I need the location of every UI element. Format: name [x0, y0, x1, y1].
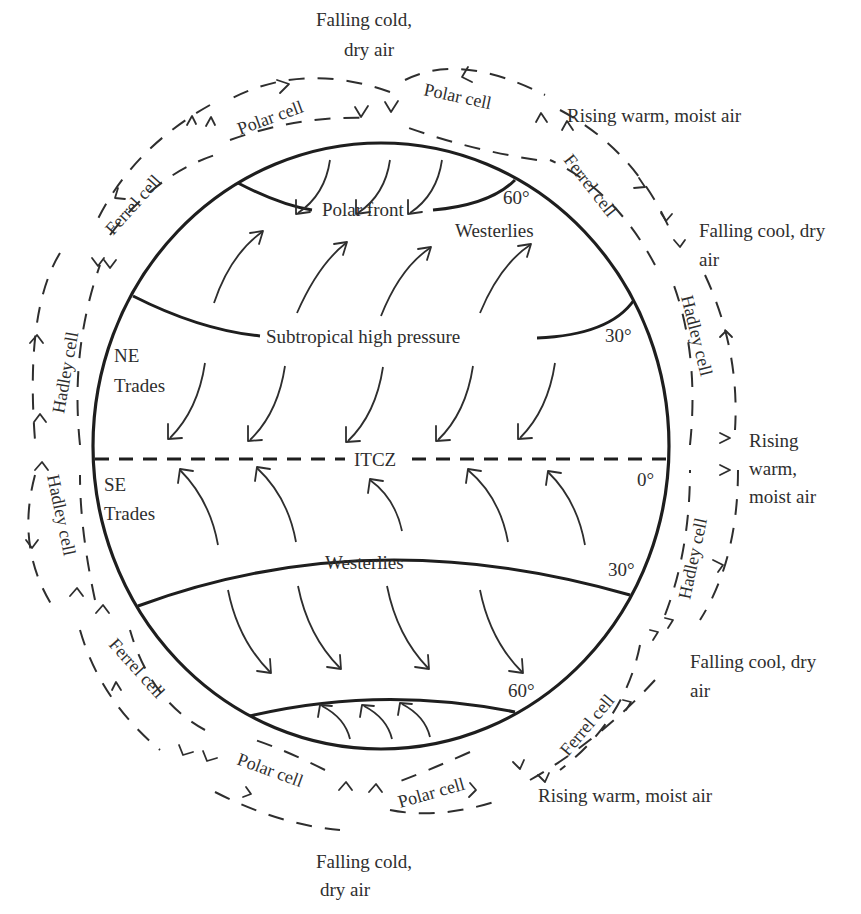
label-lat-s60: 60° [508, 680, 535, 701]
label-ne-trades-line2: Trades [114, 375, 165, 396]
label-itcz: ITCZ [354, 449, 396, 470]
label-polar-cell-ne: Polar cell [422, 79, 493, 113]
se-trades-arrows [178, 467, 585, 545]
label-polar-front: Polar front [322, 199, 405, 220]
label-hadley-cell-ne: Hadley cell [677, 293, 716, 378]
ne-trades-arrows [168, 363, 555, 442]
label-right-rising-line3: moist air [749, 486, 817, 507]
label-top-falling-line1: Falling cold, [316, 9, 412, 30]
westerlies-south-arrows [228, 586, 523, 673]
label-hadley-cell-se: Hadley cell [674, 516, 711, 601]
label-lat-s30: 30° [608, 559, 635, 580]
label-upper-right-falling-line1: Falling cool, dry [699, 220, 826, 241]
label-bottom-falling-line1: Falling cold, [316, 851, 412, 872]
atmospheric-circulation-diagram: Falling cold, dry air Rising warm, moist… [0, 0, 861, 914]
label-bottom-falling-line2: dry air [320, 879, 371, 900]
globe-outline [93, 143, 669, 749]
subtropical-high-line-left [133, 296, 260, 336]
label-se-trades-line1: SE [104, 474, 126, 495]
label-bottom-right-rising: Rising warm, moist air [538, 785, 713, 806]
label-right-rising-line2: warm, [749, 458, 797, 479]
label-lat-n30: 30° [605, 325, 632, 346]
ferrel-cell-sw-loop [80, 630, 205, 750]
label-ne-trades-line1: NE [114, 345, 139, 366]
label-lat-eq: 0° [637, 469, 654, 490]
label-upper-right-falling-line2: air [699, 249, 720, 270]
label-westerlies-north: Westerlies [455, 220, 534, 241]
label-subtropical-high: Subtropical high pressure [266, 326, 460, 347]
label-top-falling-line2: dry air [344, 39, 395, 60]
polar-cell-sw-loop [215, 740, 340, 830]
polar-easterlies-south-arrows [318, 703, 430, 739]
label-lower-right-falling-line1: Falling cool, dry [690, 651, 817, 672]
label-ferrel-cell-nw: Ferrel cell [101, 171, 165, 239]
south-60-line [250, 699, 515, 716]
label-lower-right-falling-line2: air [690, 680, 711, 701]
label-right-rising-line1: Rising [749, 430, 799, 451]
label-hadley-cell-sw: Hadley cell [43, 473, 80, 558]
label-ferrel-cell-ne: Ferrel cell [560, 150, 621, 220]
label-top-right-rising: Rising warm, moist air [567, 105, 742, 126]
label-ferrel-cell-sw: Ferrel cell [105, 634, 169, 702]
label-westerlies-south: Westerlies [325, 552, 404, 573]
label-lat-n60: 60° [503, 187, 530, 208]
label-polar-cell-nw: Polar cell [235, 97, 306, 139]
ferrel-cell-ne-loop [550, 110, 670, 265]
label-se-trades-line2: Trades [104, 503, 155, 524]
westerlies-north-arrows [214, 231, 531, 316]
polar-front-line-left [236, 182, 312, 210]
